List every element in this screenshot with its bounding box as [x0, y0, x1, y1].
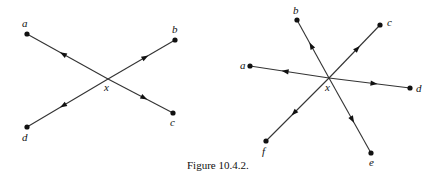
edge-x-a	[250, 66, 329, 78]
figure-caption: Figure 10.4.2.	[187, 159, 249, 171]
node-d	[24, 124, 29, 129]
arrow-head-icon	[282, 69, 289, 74]
node-label-c: c	[170, 116, 175, 128]
center-label-x: x	[324, 81, 330, 93]
arrow-head-icon	[140, 94, 147, 100]
edge-x-b	[297, 20, 329, 78]
node-b	[172, 37, 177, 42]
edge-x-c	[329, 25, 380, 78]
node-label-d: d	[416, 82, 422, 94]
left-star-graph: abcdx	[22, 17, 178, 143]
center-label-x: x	[103, 81, 109, 93]
node-label-b: b	[172, 23, 178, 35]
figure-diagram: abcdx abcdefx Figure 10.4.2.	[0, 0, 441, 175]
right-star-graph: abcdefx	[240, 4, 422, 168]
node-c	[170, 110, 175, 115]
edge-x-e	[329, 78, 371, 153]
edge-x-c	[108, 79, 173, 113]
edge-x-a	[27, 34, 108, 79]
node-label-f: f	[262, 145, 267, 157]
node-a	[24, 31, 29, 36]
edge-x-f	[266, 78, 329, 141]
arrow-head-icon	[309, 43, 315, 50]
node-b	[294, 17, 299, 22]
edge-x-d	[329, 78, 410, 88]
arrow-head-icon	[141, 56, 148, 62]
node-e	[368, 150, 373, 155]
node-label-d: d	[22, 131, 28, 143]
arrow-head-icon	[60, 52, 67, 58]
node-label-a: a	[240, 59, 246, 71]
node-label-b: b	[293, 4, 299, 16]
edge-x-b	[108, 40, 175, 79]
node-label-a: a	[22, 17, 28, 29]
arrow-head-icon	[348, 115, 354, 122]
node-f	[263, 138, 268, 143]
edge-x-d	[27, 79, 108, 127]
arrow-head-icon	[60, 102, 67, 108]
node-d	[407, 85, 412, 90]
node-label-c: c	[387, 16, 392, 28]
arrow-head-icon	[370, 81, 377, 86]
node-a	[247, 63, 252, 68]
node-c	[377, 22, 382, 27]
node-label-e: e	[369, 156, 374, 168]
